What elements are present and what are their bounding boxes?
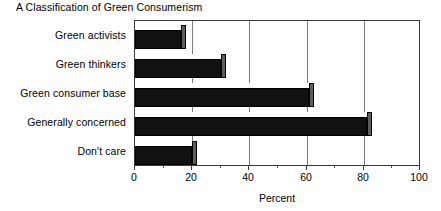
gridline-80 — [364, 21, 365, 165]
x-tick-label-80: 80 — [357, 171, 369, 183]
bar-side-face — [192, 141, 197, 165]
category-label-green-activists: Green activists — [55, 29, 126, 41]
category-axis-labels: Green activists Green thinkers Green con… — [0, 20, 130, 166]
x-tick-minor-70 — [334, 166, 335, 168]
x-tick-minor-30 — [220, 166, 221, 168]
bar-chart: A Classification of Green Consumerism Gr… — [0, 0, 441, 211]
x-tick-60 — [306, 166, 307, 170]
x-tick-label-0: 0 — [131, 171, 137, 183]
x-tick-label-60: 60 — [300, 171, 312, 183]
x-tick-minor-90 — [391, 166, 392, 168]
x-tick-0 — [134, 166, 135, 170]
bar-dont-care — [135, 141, 192, 160]
bar-green-thinkers — [135, 54, 221, 73]
bar-generally-concerned — [135, 112, 367, 131]
category-label-green-consumer-base: Green consumer base — [20, 87, 126, 99]
x-tick-40 — [248, 166, 249, 170]
bar-side-face — [309, 83, 314, 107]
bar-front-face — [135, 117, 367, 136]
bar-front-face — [135, 88, 309, 107]
plot-area — [134, 20, 420, 166]
x-axis: 0 20 40 60 80 100 — [134, 166, 420, 178]
category-label-generally-concerned: Generally concerned — [27, 116, 126, 128]
bar-side-face — [367, 112, 372, 136]
x-tick-minor-50 — [277, 166, 278, 168]
bar-front-face — [135, 30, 181, 49]
x-tick-label-20: 20 — [185, 171, 197, 183]
bar-front-face — [135, 146, 192, 165]
bar-side-face — [181, 25, 186, 49]
x-axis-title: Percent — [134, 192, 420, 204]
bar-front-face — [135, 59, 221, 78]
category-label-green-thinkers: Green thinkers — [56, 58, 126, 70]
x-tick-20 — [191, 166, 192, 170]
x-tick-label-40: 40 — [242, 171, 254, 183]
bar-green-activists — [135, 25, 181, 44]
bar-green-consumer-base — [135, 83, 309, 102]
chart-title: A Classification of Green Consumerism — [16, 1, 202, 14]
bar-side-face — [221, 54, 226, 78]
x-tick-100 — [419, 166, 420, 170]
category-label-dont-care: Don't care — [77, 145, 126, 157]
x-tick-label-100: 100 — [410, 171, 428, 183]
x-tick-80 — [363, 166, 364, 170]
x-tick-minor-10 — [163, 166, 164, 168]
